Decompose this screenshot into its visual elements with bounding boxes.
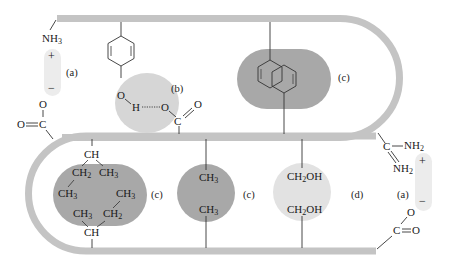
plus-sign: + [48,49,55,63]
phenyl-ring [108,36,134,66]
tag-a-left: (a) [66,67,78,79]
c-label: C [174,115,181,127]
o-double-label: O [194,98,202,110]
tag-a-right: (a) [397,189,409,201]
nh2-bottom: NH2 [393,162,413,176]
minus-sign: − [48,81,55,95]
ch-bottom: CH [84,226,99,238]
nh2-top: NH2 [404,139,424,153]
plus-sign: + [419,154,426,168]
o-double: O [412,224,420,236]
tag-b: (b) [171,83,184,95]
tag-d: (d) [351,189,364,201]
ch-top: CH [84,148,99,160]
hbond-blob [115,73,179,133]
double-bond [183,108,192,116]
c-bottom: C [393,224,400,236]
tag-c-methyl: (c) [243,189,255,201]
o-right-label: O [161,101,169,113]
minus-sign: − [419,194,426,208]
ionic-interaction-right: C NH2 NH2 + − (a) O C O [377,133,432,249]
h-label: H [132,101,140,113]
c-label: C [39,118,46,130]
c-label: C [383,140,390,152]
o-double-label: O [17,118,25,130]
tag-c-branched: (c) [151,189,163,201]
bond-line [50,20,56,30]
hydrogen-bond-interaction: O H O C O (b) [108,22,202,134]
bond-line [377,236,392,249]
double-bond [185,110,194,118]
branched-hydrophobic-interaction: CH CH2 CH3 CH3 CH3 CH3 CH2 CH (c) [53,139,163,248]
protein-interaction-diagram: NH3 + − (a) O C O O H O C O (b) [0,0,453,268]
aromatic-hydrophobic-interaction: (c) [237,22,350,134]
bond-line [46,130,53,139]
double-bond [391,151,399,162]
o-label: O [39,98,47,110]
tag-c-aromatic: (c) [338,72,350,84]
ionic-interaction-left: NH3 + − (a) O C O [17,20,78,139]
nh3-label: NH3 [42,32,62,46]
o-left-label: O [117,89,125,101]
o-top: O [407,206,415,218]
hydroxyl-interaction: CH2OH CH2OH (d) [273,139,364,248]
methyl-hydrophobic-interaction: CH3 CH3 (c) [177,139,255,248]
bond-line [401,217,407,224]
